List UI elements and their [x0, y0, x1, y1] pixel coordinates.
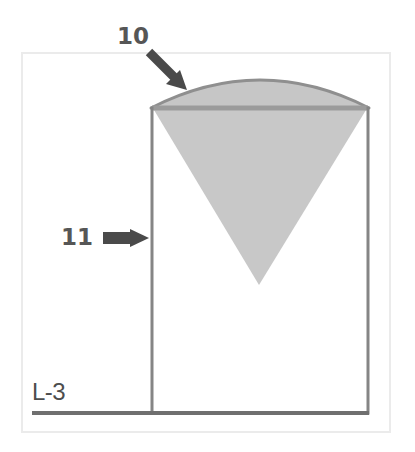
reference-label-10: 10 — [117, 25, 149, 48]
reference-label-11: 11 — [61, 226, 93, 249]
patent-figure: 10 11 L-3 — [0, 0, 415, 452]
reference-label-l3: L-3 — [32, 380, 65, 404]
